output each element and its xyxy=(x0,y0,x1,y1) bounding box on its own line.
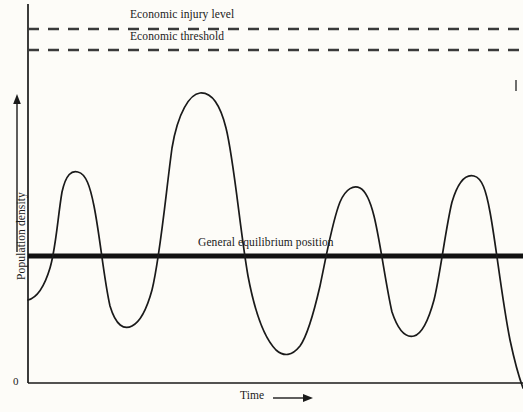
economic-injury-level-label: Economic injury level xyxy=(130,8,234,20)
chart-canvas xyxy=(0,0,523,412)
y-axis-label: Population density xyxy=(15,171,27,301)
population-density-figure: Economic injury level Economic threshold… xyxy=(0,0,523,412)
general-equilibrium-position-label: General equilibrium position xyxy=(198,236,334,248)
origin-tick-label: 0 xyxy=(13,375,19,387)
x-axis-label: Time xyxy=(240,389,264,401)
economic-threshold-label: Economic threshold xyxy=(130,30,224,42)
time-axis-arrow-icon xyxy=(273,394,313,402)
